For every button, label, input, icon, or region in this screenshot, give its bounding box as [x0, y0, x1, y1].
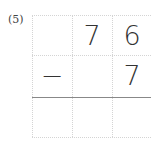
digit-cell: [72, 55, 112, 95]
grid-line: [32, 137, 151, 138]
minus-sign: −: [32, 55, 72, 95]
answer-cell[interactable]: [32, 97, 72, 137]
digit-cell: 6: [112, 15, 151, 55]
answer-cell[interactable]: [112, 97, 151, 137]
digit-cell: 7: [72, 15, 112, 55]
subtraction-grid: 7 6 − 7: [32, 15, 151, 137]
answer-cell[interactable]: [72, 97, 112, 137]
problem-number: (5): [8, 13, 24, 26]
digit-cell: [32, 15, 72, 55]
digit-cell: 7: [112, 55, 151, 95]
